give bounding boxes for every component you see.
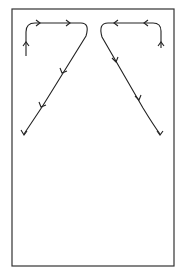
frame-border [12,9,174,266]
left-path [24,23,87,134]
diagram-canvas [0,0,184,280]
left-arrow-icons [21,20,70,135]
arrow-down-icon [157,131,163,135]
right-path [101,23,161,134]
right-arrow-icons [112,20,164,135]
